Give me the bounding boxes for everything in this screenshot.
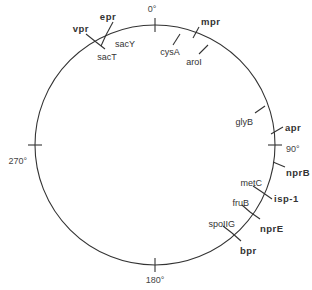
gene-marker-glyb: [255, 106, 265, 113]
gene-label-vpr: vpr: [73, 23, 89, 34]
gene-label-cysa: cysA: [160, 47, 180, 57]
gene-marker-bpr: [232, 233, 241, 241]
gene-label-spoiig: spoIIG: [208, 219, 235, 229]
gene-label-mpr: mpr: [201, 16, 220, 27]
gene-marker-cysa: [173, 34, 180, 45]
gene-label-nprb: nprB: [286, 167, 310, 178]
gene-label-npre: nprE: [260, 223, 284, 234]
gene-label-epr: epr: [100, 11, 116, 22]
gene-marker-apr: [271, 127, 283, 134]
gene-marker-nprb: [273, 162, 285, 167]
gene-marker-sact: [96, 42, 105, 49]
degree-ticks: [28, 18, 282, 272]
degree-labels: 0°90°180°270°: [8, 4, 300, 285]
gene-label-sacy: sacY: [115, 39, 135, 49]
map-canvas: 0°90°180°270° eprvprmpraprnprBisp-1nprEb…: [0, 0, 312, 290]
gene-marker-aroi: [199, 45, 208, 54]
chromosome-circle: [35, 25, 275, 265]
gene-label-bpr: bpr: [240, 245, 257, 256]
gene-label-apr: apr: [285, 122, 301, 133]
degree-label: 0°: [148, 4, 157, 14]
degree-label: 270°: [8, 156, 27, 166]
gene-label-frub: fruB: [232, 198, 249, 208]
gene-label-metc: metC: [240, 178, 262, 188]
degree-label: 180°: [146, 275, 165, 285]
gene-label-aroi: aroI: [186, 57, 202, 67]
gene-marker-vpr: [86, 34, 96, 42]
gene-label-sact: sacT: [97, 52, 117, 62]
circular-genetic-map: 0°90°180°270° eprvprmpraprnprBisp-1nprEb…: [0, 0, 312, 290]
gene-label-glyb: glyB: [235, 117, 253, 127]
degree-label: 90°: [286, 144, 300, 154]
gene-label-isp-1: isp-1: [274, 193, 299, 204]
